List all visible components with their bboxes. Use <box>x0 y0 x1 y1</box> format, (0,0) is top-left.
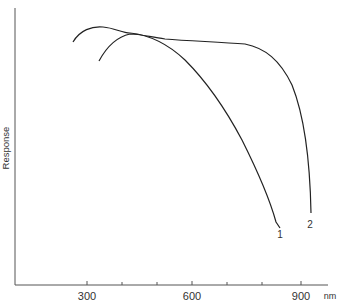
x-tick-label-900: 900 <box>292 290 310 302</box>
curve-1 <box>73 27 280 228</box>
curve-2 <box>99 34 311 213</box>
x-tick-label-600: 600 <box>183 290 201 302</box>
spectral-response-chart: 300 600 900 nm Response 1 2 <box>0 0 345 304</box>
x-ticks <box>87 281 301 285</box>
x-axis-unit: nm <box>324 291 337 301</box>
curve-label-2: 2 <box>307 219 313 230</box>
x-tick-label-300: 300 <box>78 290 96 302</box>
curve-label-1: 1 <box>277 229 283 240</box>
y-axis-label: Response <box>0 127 11 170</box>
